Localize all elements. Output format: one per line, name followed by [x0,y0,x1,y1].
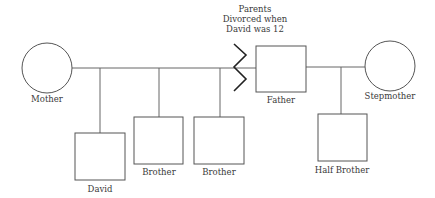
person-father: Father [256,46,306,105]
label-stepmother: Stepmother [365,91,417,101]
label-brother-2: Brother [202,167,236,177]
person-mother: Mother [22,43,72,104]
annotation-line-1: Parents [239,4,272,14]
label-half-brother: Half Brother [315,165,370,175]
genogram-diagram: Parents Divorced when David was 12 Mothe… [0,0,435,198]
male-square-icon [256,46,306,92]
female-circle-icon [22,43,72,93]
male-square-icon [75,133,125,180]
person-david: David [75,133,125,194]
divorce-annotation: Parents Divorced when David was 12 [223,4,288,34]
person-half-brother: Half Brother [315,114,370,175]
annotation-line-2: Divorced when [223,14,288,24]
label-brother-1: Brother [142,167,176,177]
annotation-line-3: David was 12 [226,24,284,34]
male-square-icon [318,114,367,161]
person-stepmother: Stepmother [365,41,417,101]
label-father: Father [267,95,296,105]
label-mother: Mother [31,94,64,104]
person-brother-1: Brother [134,117,183,177]
male-square-icon [194,117,244,164]
male-square-icon [134,117,183,164]
label-david: David [88,184,113,194]
person-brother-2: Brother [194,117,244,177]
female-circle-icon [365,41,415,91]
